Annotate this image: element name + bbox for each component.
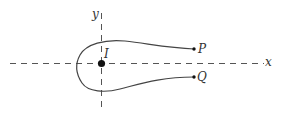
point-q-marker bbox=[192, 75, 195, 78]
point-p-marker bbox=[192, 47, 195, 50]
y-axis-label: y bbox=[91, 7, 99, 21]
point-p-label: P bbox=[197, 42, 207, 56]
center-label: I bbox=[103, 47, 109, 61]
x-axis-label: x bbox=[265, 55, 272, 69]
curve-path bbox=[77, 41, 194, 92]
diagram-canvas: y x I P Q bbox=[0, 0, 287, 117]
point-q-label: Q bbox=[197, 70, 207, 84]
